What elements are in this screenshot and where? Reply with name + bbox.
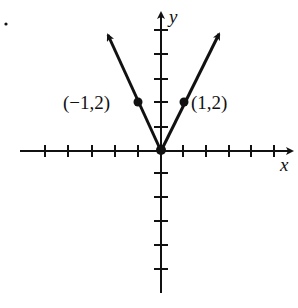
point-label-right: (1,2)	[191, 92, 227, 114]
point-neg1-2	[134, 98, 143, 107]
x-axis-label: x	[279, 154, 289, 175]
y-axis-label: y	[167, 6, 178, 27]
point-label-left: (−1,2)	[63, 92, 110, 114]
point-1-2	[180, 98, 189, 107]
graph: (−1,2) (1,2) y x	[0, 0, 298, 308]
stray-dot	[4, 22, 7, 25]
vertex-point	[156, 145, 166, 155]
x-axis	[20, 145, 292, 157]
